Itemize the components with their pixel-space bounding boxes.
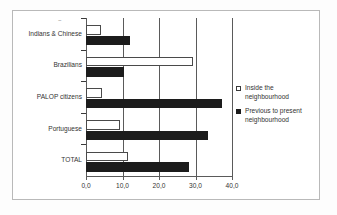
bar-group (86, 18, 232, 50)
bar-previous-to-present-neighbourhood (86, 67, 124, 77)
value-tick-0-0 (86, 176, 87, 180)
category-label-total: TOTAL (0, 156, 82, 164)
value-axis-label: 0,0 (71, 182, 101, 189)
bar-group (86, 50, 232, 82)
legend-label: Inside the neighbourhood (245, 84, 318, 101)
scan-artifact: ~ (58, 19, 64, 22)
bar-inside-the-neighbourhood (86, 57, 193, 67)
category-label-brazilians: Brazilians (0, 61, 82, 69)
value-axis-label: 30,0 (181, 182, 211, 189)
value-tick-10-0 (123, 176, 124, 180)
chart-legend: Inside the neighbourhoodPrevious to pres… (236, 84, 318, 130)
bar-group (86, 113, 232, 145)
bar-previous-to-present-neighbourhood (86, 162, 189, 172)
value-axis-label: 40,0 (217, 182, 247, 189)
bar-inside-the-neighbourhood (86, 120, 120, 130)
value-tick-30-0 (196, 176, 197, 180)
bar-inside-the-neighbourhood (86, 152, 128, 162)
legend-label: Previous to present neighbourhood (245, 107, 318, 124)
value-tick-40-0 (232, 176, 233, 180)
plot-area (86, 18, 232, 176)
filled-square-icon (236, 109, 241, 114)
bar-inside-the-neighbourhood (86, 25, 101, 35)
value-axis-label: 20,0 (144, 182, 174, 189)
gridline-40-0 (232, 18, 233, 176)
chart-figure: ~ 0,010,020,030,040,0 Indians & ChineseB… (0, 0, 337, 215)
bar-inside-the-neighbourhood (86, 88, 102, 98)
bar-previous-to-present-neighbourhood (86, 36, 130, 46)
bar-group (86, 144, 232, 176)
bar-previous-to-present-neighbourhood (86, 131, 208, 141)
bar-group (86, 81, 232, 113)
category-label-indians-chinese: Indians & Chinese (0, 30, 82, 38)
value-tick-20-0 (159, 176, 160, 180)
legend-entry[interactable]: Previous to present neighbourhood (236, 107, 318, 124)
category-label-palop-citizens: PALOP citizens (0, 93, 82, 101)
bar-previous-to-present-neighbourhood (86, 99, 222, 109)
hollow-square-icon (236, 86, 241, 91)
value-axis-label: 10,0 (108, 182, 138, 189)
legend-entry[interactable]: Inside the neighbourhood (236, 84, 318, 101)
category-label-portuguese: Portuguese (0, 125, 82, 133)
